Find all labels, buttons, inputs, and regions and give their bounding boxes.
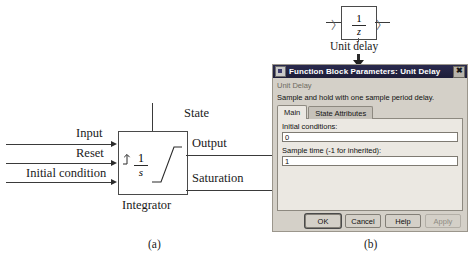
state-label: State	[184, 106, 209, 121]
dialog-tabstrip: Main State Attributes	[277, 107, 463, 119]
cancel-button[interactable]: Cancel	[345, 214, 381, 228]
dialog-button-row: OK Cancel Help Apply	[277, 211, 463, 231]
state-signal-line	[152, 103, 153, 132]
figure-canvas: State Input Reset Initial condition 1 s …	[0, 0, 472, 260]
input-arrow-icon	[111, 141, 117, 147]
apply-button: Apply	[425, 214, 461, 228]
dialog-tab-panel: Initial conditions: 0 Sample time (-1 fo…	[277, 118, 463, 211]
panel-a-caption: (a)	[148, 238, 161, 250]
unit-delay-connector-line	[358, 38, 359, 42]
panel-b-caption: (b)	[364, 238, 377, 250]
input-signal-line	[6, 144, 112, 145]
initial-condition-signal-line	[6, 182, 112, 183]
unit-delay-output-port-icon: 〉	[376, 16, 387, 32]
ok-button[interactable]: OK	[305, 214, 341, 228]
unit-delay-block-label: Unit delay	[330, 40, 378, 52]
dialog-titlebar[interactable]: Function Block Parameters: Unit Delay ✖	[273, 65, 467, 78]
dialog-title: Function Block Parameters: Unit Delay	[289, 67, 453, 76]
sample-time-label: Sample time (-1 for inherited):	[282, 146, 458, 155]
unit-delay-transfer-denominator: z	[342, 27, 376, 37]
integrator-transfer-denominator: s	[134, 167, 148, 178]
initial-condition-label: Initial condition	[26, 166, 106, 181]
dialog-block-description: Sample and hold with one sample period d…	[277, 93, 463, 102]
input-label: Input	[76, 126, 102, 141]
reset-arrow-icon	[111, 160, 117, 166]
integrator-block-label: Integrator	[122, 198, 171, 213]
saturation-signal-line	[186, 190, 284, 191]
close-icon[interactable]: ✖	[453, 66, 465, 78]
block-parameters-icon	[275, 66, 286, 77]
initial-condition-arrow-icon	[111, 179, 117, 185]
tab-main[interactable]: Main	[277, 105, 307, 119]
output-signal-line	[186, 155, 284, 156]
reset-label: Reset	[76, 146, 104, 161]
reset-signal-line	[6, 163, 112, 164]
initial-conditions-label: Initial conditions:	[282, 122, 458, 131]
dialog-body: Unit Delay Sample and hold with one samp…	[273, 78, 467, 231]
sample-time-input[interactable]: 1	[282, 156, 458, 166]
saturation-label: Saturation	[192, 171, 243, 186]
dialog-block-heading: Unit Delay	[277, 81, 463, 90]
output-label: Output	[192, 136, 227, 151]
function-block-parameters-dialog: Function Block Parameters: Unit Delay ✖ …	[272, 64, 468, 232]
unit-delay-transfer-numerator: 1	[342, 13, 376, 24]
help-button[interactable]: Help	[385, 214, 421, 228]
integrator-transfer-numerator: 1	[134, 152, 148, 164]
integrator-transfer-function: 1 s	[134, 152, 148, 178]
initial-conditions-input[interactable]: 0	[282, 132, 458, 142]
unit-delay-block: 1 z	[341, 6, 377, 40]
tab-state-attributes[interactable]: State Attributes	[308, 106, 373, 119]
saturation-ramp-icon	[151, 142, 183, 186]
unit-delay-transfer-function: 1 z	[342, 13, 376, 37]
